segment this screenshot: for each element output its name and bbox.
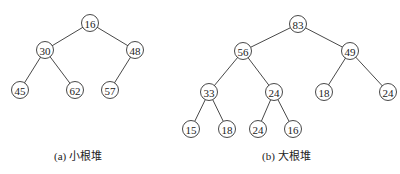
max-heap-node: 24 <box>250 121 267 138</box>
max-heap-node: 15 <box>183 121 200 138</box>
node-value: 15 <box>186 124 198 136</box>
max-heap-node: 18 <box>219 121 236 138</box>
max-heap-node: 24 <box>380 84 397 101</box>
max-heap-node: 18 <box>316 84 333 101</box>
caption-min-heap: (a) 小根堆 <box>54 147 102 163</box>
node-value: 33 <box>204 87 216 99</box>
node-value: 24 <box>383 87 395 99</box>
node-value: 45 <box>15 85 27 97</box>
node-value: 24 <box>269 87 281 99</box>
max-heap-node: 33 <box>201 84 218 101</box>
node-value: 16 <box>85 18 97 30</box>
node-value: 48 <box>130 45 142 57</box>
node-value: 62 <box>70 85 81 97</box>
tree-nodes: 1630484562578356493324182415182416 <box>12 15 397 138</box>
node-value: 16 <box>288 124 300 136</box>
max-heap-node: 16 <box>285 121 302 138</box>
tree-edges <box>20 23 388 129</box>
min-heap-node: 48 <box>127 42 144 59</box>
max-heap-node: 24 <box>266 84 283 101</box>
node-value: 18 <box>222 124 234 136</box>
min-heap-node: 62 <box>67 82 84 99</box>
max-heap-node: 49 <box>342 43 359 60</box>
tree-edge <box>243 24 298 51</box>
caption-max-heap: (b) 大根堆 <box>262 147 311 163</box>
min-heap-node: 45 <box>12 82 29 99</box>
node-value: 83 <box>293 19 305 31</box>
max-heap-node: 56 <box>235 43 252 60</box>
min-heap-node: 57 <box>102 82 119 99</box>
node-value: 18 <box>319 87 331 99</box>
min-heap-node: 30 <box>37 42 54 59</box>
node-value: 57 <box>105 85 117 97</box>
node-value: 30 <box>40 45 52 57</box>
min-heap-node: 16 <box>82 15 99 32</box>
node-value: 49 <box>345 46 357 58</box>
node-value: 56 <box>238 46 250 58</box>
max-heap-node: 83 <box>290 16 307 33</box>
node-value: 24 <box>253 124 265 136</box>
